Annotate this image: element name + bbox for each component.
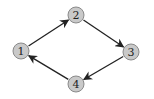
edge-3-to-4	[84, 57, 123, 80]
node-label: 2	[73, 9, 80, 22]
node-1: 1	[13, 43, 29, 59]
node-2: 2	[68, 7, 84, 23]
node-label: 3	[128, 46, 135, 59]
edges-group	[29, 20, 124, 80]
edge-2-to-3	[83, 20, 123, 47]
node-label: 1	[18, 45, 25, 58]
node-3: 3	[123, 44, 139, 60]
graph-canvas: 1234	[0, 0, 154, 99]
nodes-group: 1234	[13, 7, 139, 92]
edge-1-to-2	[29, 20, 69, 46]
node-label: 4	[73, 78, 80, 91]
node-4: 4	[68, 76, 84, 92]
edge-4-to-1	[29, 56, 69, 80]
